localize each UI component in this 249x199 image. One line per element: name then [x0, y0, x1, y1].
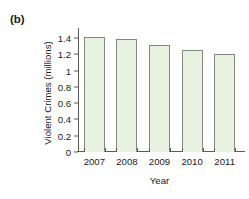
plot-area: 00.20.40.60.811.21.4 2007200820092010201… — [78, 30, 241, 152]
x-tick-mark — [235, 148, 236, 152]
x-tick-mark — [137, 148, 138, 152]
bar-chart-figure: (b) Violent Crimes (millions) 00.20.40.6… — [0, 0, 249, 199]
panel-label: (b) — [10, 13, 25, 25]
x-tick-mark — [105, 148, 106, 152]
bar-group: 2008 — [111, 30, 144, 152]
bar-group: 2011 — [208, 30, 241, 152]
bar — [149, 45, 170, 152]
x-tick-mark — [149, 148, 150, 152]
bar-group: 2010 — [176, 30, 209, 152]
x-tick-mark — [84, 148, 85, 152]
x-tick-label: 2010 — [181, 156, 202, 167]
x-tick-mark — [182, 148, 183, 152]
x-tick-mark — [214, 148, 215, 152]
x-tick-mark — [203, 148, 204, 152]
bar — [84, 37, 105, 152]
x-tick-label: 2007 — [84, 156, 105, 167]
x-axis-title: Year — [78, 175, 241, 186]
x-tick-mark — [170, 148, 171, 152]
x-tick-label: 2008 — [116, 156, 137, 167]
x-tick-label: 2011 — [214, 156, 235, 167]
bar — [182, 50, 203, 152]
bar-group: 2007 — [78, 30, 111, 152]
bar — [214, 54, 235, 152]
bar-group: 2009 — [143, 30, 176, 152]
x-tick-mark — [116, 148, 117, 152]
bar-series: 20072008200920102011 — [78, 30, 241, 152]
x-tick-label: 2009 — [149, 156, 170, 167]
bar — [116, 39, 137, 152]
